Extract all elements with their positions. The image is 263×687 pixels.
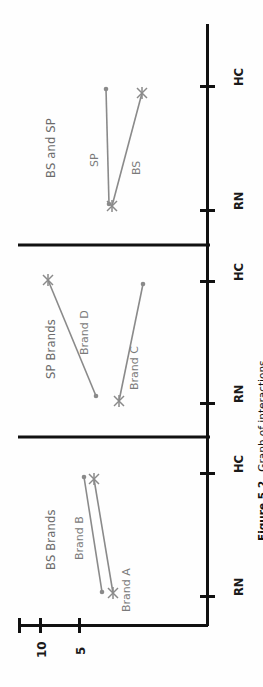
series-point-brand-b-rn bbox=[100, 590, 105, 595]
panel-bs-and-sp-data bbox=[104, 87, 147, 212]
panel-title-sp-brands: SP Brands bbox=[44, 319, 58, 379]
figure-caption-label: Figure 5.2 bbox=[256, 481, 263, 541]
series-point-brand-c-hc bbox=[141, 282, 146, 287]
figure-caption-text: Graph of interactions bbox=[256, 360, 263, 471]
xtick-label-bs-sp-hc: HC bbox=[232, 68, 246, 86]
series-line-brand-a bbox=[94, 479, 113, 593]
series-line-sp bbox=[106, 89, 109, 204]
series-point-sp-hc bbox=[104, 87, 109, 92]
figure-page: HC RN HC RN HC RN 5 10 BS and SP SP Bran… bbox=[0, 0, 263, 687]
series-point-brand-d-hc bbox=[43, 274, 53, 286]
panel-title-bs-and-sp: BS and SP bbox=[44, 118, 58, 178]
series-label-brand-c: Brand C bbox=[128, 346, 141, 390]
series-point-brand-b-hc bbox=[82, 475, 87, 480]
series-point-brand-a-hc bbox=[89, 473, 99, 485]
xtick-label-bs-brands-hc: HC bbox=[232, 455, 246, 473]
series-line-brand-b bbox=[84, 477, 102, 592]
xtick-label-sp-brands-rn: RN bbox=[232, 385, 246, 403]
series-point-brand-a-rn bbox=[108, 587, 118, 599]
series-line-bs bbox=[112, 93, 142, 206]
panel-bs-brands-data bbox=[82, 473, 118, 599]
series-label-bs: BS bbox=[130, 161, 143, 175]
series-point-brand-d-rn bbox=[94, 394, 99, 399]
xtick-label-sp-brands-hc: HC bbox=[232, 263, 246, 281]
panel-title-bs-brands: BS Brands bbox=[44, 509, 58, 570]
series-label-brand-b: Brand B bbox=[73, 516, 86, 560]
ytick-label-10: 10 bbox=[35, 641, 49, 658]
series-point-brand-c-rn bbox=[114, 395, 124, 407]
xtick-label-bs-brands-rn: RN bbox=[232, 578, 246, 596]
ytick-label-5: 5 bbox=[74, 647, 88, 655]
series-label-brand-d: Brand D bbox=[78, 310, 91, 355]
series-label-sp: SP bbox=[88, 153, 101, 167]
series-label-brand-a: Brand A bbox=[120, 568, 133, 612]
series-point-bs-hc bbox=[137, 87, 147, 99]
xtick-label-bs-sp-rn: RN bbox=[232, 192, 246, 210]
figure-caption: Figure 5.2Graph of interactions bbox=[251, 360, 263, 541]
